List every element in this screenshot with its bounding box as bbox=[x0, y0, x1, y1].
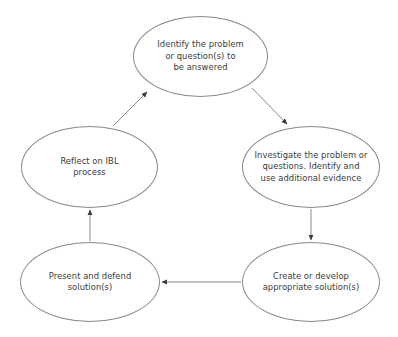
node-create-or-develop-solutions: Create or develop appropriate solution(s… bbox=[242, 242, 380, 322]
node-identify-label: Identify the problem or question(s) to b… bbox=[151, 39, 249, 73]
ibl-cycle-diagram: Identify the problem or question(s) to b… bbox=[0, 0, 398, 337]
node-reflect-label: Reflect on IBL process bbox=[54, 156, 124, 179]
node-present-label: Present and defend solution(s) bbox=[43, 271, 138, 294]
node-reflect-on-ibl-process: Reflect on IBL process bbox=[21, 126, 158, 208]
edge-identify-to-investigate bbox=[252, 88, 287, 124]
node-present-and-defend-solutions: Present and defend solution(s) bbox=[20, 242, 160, 322]
node-create-label: Create or develop appropriate solution(s… bbox=[257, 271, 366, 294]
node-identify-the-problem: Identify the problem or question(s) to b… bbox=[133, 16, 268, 97]
node-investigate-label: Investigate the problem or questions. Id… bbox=[249, 150, 374, 184]
edge-reflect-to-identify bbox=[113, 92, 147, 126]
node-investigate-the-problem: Investigate the problem or questions. Id… bbox=[242, 126, 380, 208]
